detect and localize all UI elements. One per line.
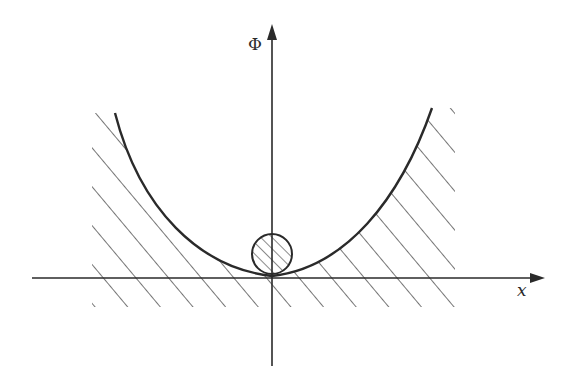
x-axis-arrow-icon xyxy=(530,273,545,283)
hatched-region xyxy=(80,90,470,320)
ball xyxy=(252,234,292,274)
phi-axis-label: Φ xyxy=(248,34,262,54)
phi-axis-arrow-icon xyxy=(267,24,277,40)
x-axis-label: x xyxy=(517,280,527,300)
phi-axis xyxy=(267,24,277,366)
potential-well-figure xyxy=(0,0,571,383)
